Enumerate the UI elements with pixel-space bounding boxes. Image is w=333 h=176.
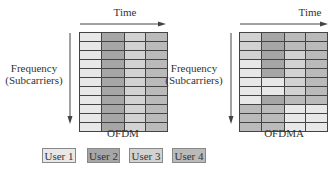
grid-cell-user4 [285, 42, 305, 50]
ofdm-resource-grid [79, 32, 168, 132]
grid-cell-user4 [306, 96, 327, 104]
grid-cell-user3 [125, 78, 145, 86]
grid-cell-user3 [125, 51, 145, 59]
grid-cell-user3 [240, 42, 261, 50]
grid-cell-user3 [285, 60, 305, 68]
grid-cell-user4 [306, 87, 327, 95]
grid-cell-user1 [285, 105, 305, 113]
grid-cell-user2 [102, 33, 124, 41]
grid-cell-user4 [262, 114, 284, 122]
grid-cell-user1 [80, 87, 101, 95]
grid-cell-user4 [240, 114, 261, 122]
grid-cell-user3 [125, 42, 145, 50]
grid-cell-user1 [240, 87, 261, 95]
grid-cell-user3 [285, 78, 305, 86]
grid-cell-user1 [240, 60, 261, 68]
grid-cell-user2 [262, 60, 284, 68]
legend-user-3: User 3 [129, 148, 163, 163]
grid-cell-user4 [306, 78, 327, 86]
grid-cell-user3 [125, 60, 145, 68]
grid-cell-user1 [80, 42, 101, 50]
grid-cell-user1 [80, 51, 101, 59]
grid-cell-user1 [262, 87, 284, 95]
time-axis-label: Time [105, 6, 145, 18]
grid-cell-user4 [146, 51, 167, 59]
grid-cell-user3 [285, 69, 305, 77]
ofdm-title: OFDM [100, 127, 146, 139]
grid-cell-user4 [306, 42, 327, 50]
grid-cell-user4 [306, 33, 327, 41]
grid-cell-user1 [80, 96, 101, 104]
legend-user-1: User 1 [42, 148, 76, 163]
grid-cell-user4 [262, 105, 284, 113]
grid-cell-user3 [125, 33, 145, 41]
ofdma-title: OFDMA [258, 127, 310, 139]
grid-cell-user2 [262, 69, 284, 77]
grid-cell-user1 [80, 123, 101, 131]
grid-cell-user3 [285, 51, 305, 59]
frequency-label-line2: (Subcarriers) [163, 74, 225, 86]
grid-cell-user3 [125, 96, 145, 104]
grid-cell-user1 [80, 105, 101, 113]
frequency-arrow-icon [227, 33, 235, 125]
frequency-label-line1: Frequency [163, 62, 225, 74]
grid-cell-user1 [240, 78, 261, 86]
grid-cell-user2 [262, 96, 284, 104]
grid-cell-user3 [285, 87, 305, 95]
grid-cell-user1 [285, 114, 305, 122]
grid-cell-user1 [80, 33, 101, 41]
grid-cell-user3 [125, 87, 145, 95]
frequency-label-line2: (Subcarriers) [4, 74, 64, 86]
time-arrow-icon [78, 20, 168, 28]
frequency-label-line1: Frequency [4, 62, 64, 74]
ofdma-resource-grid [239, 32, 328, 132]
grid-cell-user2 [102, 69, 124, 77]
grid-cell-user2 [102, 42, 124, 50]
grid-cell-user3 [125, 69, 145, 77]
grid-cell-user1 [240, 96, 261, 104]
frequency-axis-label: Frequency (Subcarriers) [4, 62, 64, 86]
grid-cell-user3 [240, 33, 261, 41]
grid-cell-user2 [102, 105, 124, 113]
frequency-axis-label: Frequency (Subcarriers) [163, 62, 225, 86]
grid-cell-user2 [102, 51, 124, 59]
grid-cell-user4 [306, 60, 327, 68]
grid-cell-user1 [306, 105, 327, 113]
grid-cell-user2 [102, 60, 124, 68]
grid-cell-user1 [80, 60, 101, 68]
grid-cell-user1 [240, 69, 261, 77]
grid-cell-user4 [146, 33, 167, 41]
grid-cell-user4 [240, 105, 261, 113]
grid-cell-user2 [102, 87, 124, 95]
grid-cell-user2 [262, 42, 284, 50]
grid-cell-user4 [146, 42, 167, 50]
grid-cell-user4 [285, 33, 305, 41]
legend-user-2: User 2 [87, 148, 120, 163]
grid-cell-user4 [306, 69, 327, 77]
grid-cell-user2 [102, 78, 124, 86]
grid-cell-user2 [262, 33, 284, 41]
grid-cell-user1 [80, 114, 101, 122]
legend-user-4: User 4 [172, 148, 206, 163]
frequency-arrow-icon [66, 33, 74, 125]
grid-cell-user4 [146, 114, 167, 122]
grid-cell-user4 [146, 123, 167, 131]
grid-cell-user2 [102, 96, 124, 104]
grid-cell-user4 [146, 105, 167, 113]
time-arrow-icon [238, 20, 330, 28]
grid-cell-user4 [146, 96, 167, 104]
grid-cell-user1 [306, 114, 327, 122]
time-axis-label: Time [290, 6, 330, 18]
grid-cell-user4 [306, 51, 327, 59]
grid-cell-user4 [146, 87, 167, 95]
grid-cell-user1 [80, 78, 101, 86]
grid-cell-user3 [240, 51, 261, 59]
grid-cell-user4 [285, 96, 305, 104]
grid-cell-user3 [125, 114, 145, 122]
grid-cell-user2 [262, 51, 284, 59]
grid-cell-user1 [262, 78, 284, 86]
grid-cell-user2 [102, 114, 124, 122]
grid-cell-user3 [125, 105, 145, 113]
grid-cell-user1 [80, 69, 101, 77]
